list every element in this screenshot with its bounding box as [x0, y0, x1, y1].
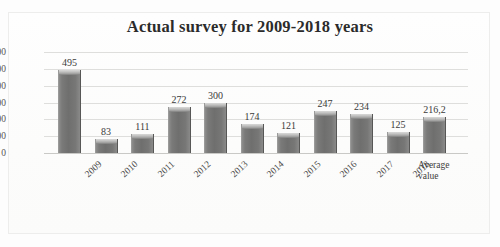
gridline	[44, 69, 468, 70]
bar[interactable]	[168, 107, 191, 153]
bar[interactable]	[204, 103, 227, 154]
bar[interactable]	[131, 134, 154, 153]
bar[interactable]	[423, 117, 446, 153]
bar[interactable]	[277, 133, 300, 153]
bar[interactable]	[95, 139, 118, 153]
bar[interactable]	[241, 124, 264, 153]
chart-title: Actual survey for 2009-2018 years	[0, 17, 500, 37]
gridline	[44, 103, 468, 104]
y-axis-tick-label: 0	[0, 148, 6, 158]
y-axis-tick-label: 300	[0, 98, 6, 108]
y-axis-tick-label: 200	[0, 114, 6, 124]
y-axis-tick-label: 100	[0, 131, 6, 141]
bar[interactable]	[387, 132, 410, 153]
bar-value-label: 495	[47, 57, 93, 68]
bar[interactable]	[58, 70, 81, 153]
bar[interactable]	[314, 111, 337, 153]
bar-value-label: 125	[375, 119, 421, 130]
chart-page: Actual survey for 2009-2018 years 600500…	[0, 0, 500, 247]
x-axis-tick-label: Averagevalue	[418, 160, 449, 182]
bar-value-label: 216,2	[412, 104, 458, 115]
x-axis-tick-label-line: Average	[418, 160, 449, 171]
bar-value-label: 111	[120, 121, 166, 132]
bar-value-label: 234	[339, 101, 385, 112]
bar[interactable]	[350, 114, 373, 153]
y-axis-tick-label: 600	[0, 47, 6, 57]
bar-value-label: 121	[266, 120, 312, 131]
plot-area: 6005004003002001000495831112723001741212…	[44, 52, 468, 153]
x-axis-tick-label-line: value	[418, 171, 449, 182]
y-axis-tick-label: 400	[0, 81, 6, 91]
bar-value-label: 300	[193, 90, 239, 101]
gridline	[44, 86, 468, 87]
y-axis-tick-label: 500	[0, 64, 6, 74]
gridline	[44, 52, 468, 53]
axis-baseline	[44, 153, 468, 154]
